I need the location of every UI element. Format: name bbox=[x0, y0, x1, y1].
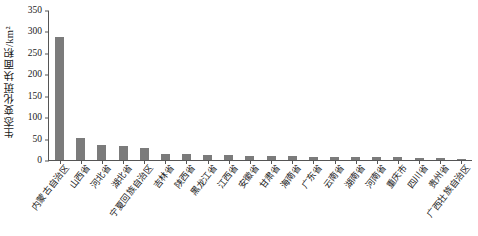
bar[interactable] bbox=[415, 158, 424, 160]
bar[interactable] bbox=[330, 157, 339, 160]
x-axis-tick-label: 河南省 bbox=[364, 163, 388, 190]
y-axis-tick-label: 200 bbox=[2, 71, 42, 81]
bar[interactable] bbox=[245, 156, 254, 160]
bar[interactable] bbox=[182, 154, 191, 160]
x-axis-tick-label: 安徽省 bbox=[237, 163, 261, 190]
x-axis-tick-label: 湖南省 bbox=[343, 163, 367, 190]
x-axis-labels: 内蒙古自治区山西省河北省湖北省宁夏回族自治区吉林省陕西省黑龙江省江西省安徽省甘肃… bbox=[48, 161, 472, 236]
bar[interactable] bbox=[161, 154, 170, 160]
x-axis-tick-label: 海南省 bbox=[279, 163, 303, 190]
bar-slot bbox=[261, 11, 282, 160]
y-axis-tick-label: 50 bbox=[2, 135, 42, 145]
bar-slot bbox=[112, 11, 133, 160]
bar-slot bbox=[218, 11, 239, 160]
bar-slot bbox=[282, 11, 303, 160]
x-axis-tick-label: 广东省 bbox=[300, 163, 324, 190]
y-axis-tick-label: 0 bbox=[2, 156, 42, 166]
bar-slot bbox=[176, 11, 197, 160]
y-axis-tick-label: 100 bbox=[2, 113, 42, 123]
bar-slot bbox=[155, 11, 176, 160]
bar-slot bbox=[387, 11, 408, 160]
bar-slot bbox=[91, 11, 112, 160]
bar-slot bbox=[409, 11, 430, 160]
x-axis-tick-label: 四川省 bbox=[406, 163, 430, 190]
y-axis-tick-label: 150 bbox=[2, 92, 42, 102]
bar[interactable] bbox=[393, 157, 402, 160]
bar-slot bbox=[451, 11, 472, 160]
bar[interactable] bbox=[203, 155, 212, 160]
bar-slot bbox=[324, 11, 345, 160]
x-axis-tick-label: 河北省 bbox=[89, 163, 113, 190]
bar-slot bbox=[345, 11, 366, 160]
bar-slot bbox=[197, 11, 218, 160]
x-axis-tick-label: 江西省 bbox=[216, 163, 240, 190]
y-axis-tick-label: 350 bbox=[2, 6, 42, 16]
bar[interactable] bbox=[372, 157, 381, 160]
x-axis-tick-label: 山西省 bbox=[68, 163, 92, 190]
bar-slot bbox=[239, 11, 260, 160]
bars-layer bbox=[49, 11, 472, 160]
bar-chart-figure: 生态变化斑块面积/km² 050100150200250300350 内蒙古自治… bbox=[0, 0, 478, 236]
bar[interactable] bbox=[140, 148, 149, 160]
x-axis-tick-label: 云南省 bbox=[322, 163, 346, 190]
bar-slot bbox=[430, 11, 451, 160]
bar-slot bbox=[134, 11, 155, 160]
bar[interactable] bbox=[267, 156, 276, 160]
bar[interactable] bbox=[97, 145, 106, 160]
bar[interactable] bbox=[288, 156, 297, 160]
x-axis-tick-label: 内蒙古自治区 bbox=[30, 163, 71, 212]
x-axis-tick-label: 重庆市 bbox=[385, 163, 409, 190]
x-axis-tick-label: 甘肃省 bbox=[258, 163, 282, 190]
bar[interactable] bbox=[457, 159, 466, 161]
bar[interactable] bbox=[436, 158, 445, 160]
y-axis-tick-label: 300 bbox=[2, 28, 42, 38]
bar[interactable] bbox=[351, 157, 360, 160]
plot-area: 050100150200250300350 bbox=[48, 11, 472, 161]
x-axis-tick-label: 宁夏回族自治区 bbox=[109, 163, 156, 219]
bar[interactable] bbox=[76, 138, 85, 160]
bar-slot bbox=[49, 11, 70, 160]
x-axis-tick-label: 广西壮族自治区 bbox=[426, 163, 473, 219]
bar-slot bbox=[70, 11, 91, 160]
bar[interactable] bbox=[55, 37, 64, 160]
bar[interactable] bbox=[224, 155, 233, 160]
y-axis-tick-label: 250 bbox=[2, 49, 42, 59]
bar[interactable] bbox=[309, 157, 318, 160]
bar[interactable] bbox=[119, 146, 128, 160]
bar-slot bbox=[303, 11, 324, 160]
bar-slot bbox=[366, 11, 387, 160]
x-axis-tick-label: 吉林省 bbox=[152, 163, 176, 190]
